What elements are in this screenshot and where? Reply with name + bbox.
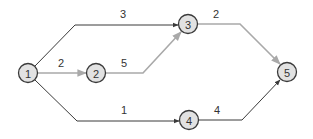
graph-diagram: 3 2 5 2 1 4 1 (0, 0, 313, 139)
node-2: 2 (87, 64, 106, 83)
graph-svg: 3 2 5 2 1 4 1 (0, 0, 313, 139)
node-2-label: 2 (93, 68, 99, 80)
edge-4-5-weight: 4 (214, 104, 220, 116)
edge-1-4-weight: 1 (121, 104, 127, 116)
edge-2-3: 5 (106, 32, 181, 73)
node-4-label: 4 (186, 115, 192, 127)
edge-3-5-weight: 2 (213, 8, 219, 20)
node-1-label: 1 (25, 68, 31, 80)
node-3: 3 (179, 15, 198, 34)
edge-4-5: 4 (199, 80, 280, 120)
edge-2-3-weight: 5 (121, 57, 127, 69)
node-5: 5 (278, 63, 297, 82)
edge-3-5: 2 (198, 8, 280, 64)
node-3-label: 3 (185, 19, 191, 31)
node-1: 1 (19, 64, 38, 83)
edge-1-2: 2 (38, 57, 86, 73)
edge-1-4: 1 (35, 80, 179, 121)
node-4: 4 (180, 111, 199, 130)
edge-1-2-weight: 2 (58, 57, 64, 69)
edge-1-3-weight: 3 (120, 8, 126, 20)
node-5-label: 5 (284, 67, 290, 79)
